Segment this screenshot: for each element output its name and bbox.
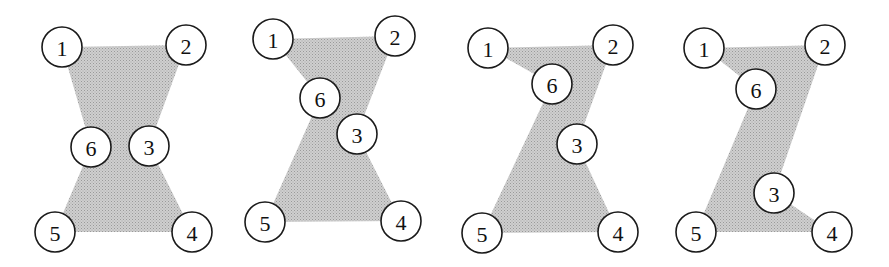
vertex-node-3: 3 (754, 173, 794, 213)
shaded-polygon (265, 36, 401, 222)
vertex-node-3: 3 (557, 124, 597, 164)
vertex-node-1: 1 (42, 27, 82, 67)
vertex-node-1: 1 (468, 28, 508, 68)
vertex-node-2: 2 (375, 16, 415, 56)
vertex-node-6: 6 (300, 78, 340, 118)
vertex-node-2: 2 (166, 25, 206, 65)
vertex-label: 2 (608, 34, 619, 59)
vertex-label: 1 (699, 37, 710, 62)
panel-2: 123456 (245, 16, 421, 242)
vertex-node-6: 6 (71, 127, 111, 167)
vertex-node-6: 6 (532, 64, 572, 104)
vertex-node-5: 5 (462, 213, 502, 253)
vertex-node-6: 6 (736, 69, 776, 109)
vertex-label: 4 (187, 221, 198, 246)
vertex-node-4: 4 (598, 212, 638, 252)
panel-1: 123456 (35, 25, 212, 252)
vertex-label: 4 (396, 210, 407, 235)
vertex-label: 6 (547, 73, 558, 98)
vertex-node-4: 4 (172, 212, 212, 252)
vertex-label: 6 (315, 87, 326, 112)
vertex-node-1: 1 (684, 28, 724, 68)
panel-4: 123456 (676, 25, 852, 252)
vertex-label: 3 (572, 133, 583, 158)
vertex-node-3: 3 (337, 114, 377, 154)
vertex-label: 5 (477, 222, 488, 247)
vertex-label: 5 (50, 221, 61, 246)
vertex-label: 6 (86, 136, 97, 161)
vertex-node-3: 3 (129, 126, 169, 166)
vertex-label: 5 (260, 211, 271, 236)
vertex-label: 4 (613, 221, 624, 246)
panel-3: 123456 (462, 25, 638, 253)
vertex-label: 2 (820, 34, 831, 59)
vertex-node-4: 4 (381, 201, 421, 241)
diagram-canvas: 123456123456123456123456 (0, 0, 889, 267)
vertex-label: 3 (144, 135, 155, 160)
vertex-node-2: 2 (805, 25, 845, 65)
vertex-label: 1 (57, 36, 68, 61)
vertex-node-4: 4 (812, 212, 852, 252)
vertex-label: 3 (352, 123, 363, 148)
vertex-node-5: 5 (245, 202, 285, 242)
vertex-label: 3 (769, 182, 780, 207)
vertex-node-5: 5 (35, 212, 75, 252)
vertex-node-1: 1 (253, 19, 293, 59)
vertex-label: 2 (390, 25, 401, 50)
vertex-label: 4 (827, 221, 838, 246)
vertex-label: 1 (483, 37, 494, 62)
vertex-label: 5 (691, 221, 702, 246)
vertex-node-5: 5 (676, 212, 716, 252)
vertex-label: 1 (268, 28, 279, 53)
vertex-label: 2 (181, 34, 192, 59)
vertex-node-2: 2 (593, 25, 633, 65)
vertex-label: 6 (751, 78, 762, 103)
